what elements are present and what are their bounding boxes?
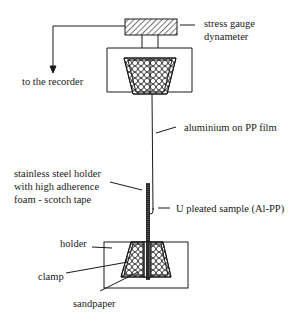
stress-gauge-block bbox=[125, 19, 177, 35]
diagram-canvas: stress gauge dynameter to the recorder a… bbox=[0, 0, 300, 325]
label-film: aluminium on PP film bbox=[184, 121, 277, 134]
label-line: stainless steel holder bbox=[14, 167, 101, 180]
label-line: stress gauge bbox=[204, 17, 255, 30]
label-line: dynameter bbox=[204, 30, 255, 43]
label-clamp: clamp bbox=[38, 270, 64, 283]
label-stress-gauge: stress gauge dynameter bbox=[204, 17, 255, 43]
label-sandpaper: sandpaper bbox=[73, 297, 116, 310]
aluminium-film bbox=[152, 94, 153, 210]
label-holder: holder bbox=[60, 237, 87, 250]
label-recorder: to the recorder bbox=[22, 75, 83, 88]
label-steel-holder: stainless steel holder with high adheren… bbox=[14, 167, 101, 206]
label-line: foam - scotch tape bbox=[14, 193, 101, 206]
label-sample: U pleated sample (Al-PP) bbox=[176, 202, 284, 215]
label-line: with high adherence bbox=[14, 180, 101, 193]
